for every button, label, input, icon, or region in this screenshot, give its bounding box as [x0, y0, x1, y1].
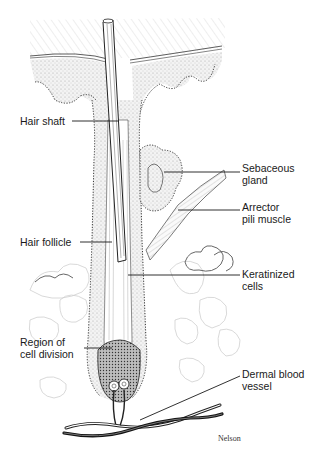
label-text: cell division: [20, 348, 74, 360]
label-text: Hair follicle: [20, 236, 71, 248]
label-dermal-blood-vessel: Dermal blood vessel: [242, 368, 304, 392]
label-text: Dermal blood: [242, 368, 304, 380]
label-text: gland: [242, 174, 295, 186]
label-arrector-pili-muscle: Arrector pili muscle: [242, 201, 291, 225]
label-text: vessel: [242, 380, 304, 392]
label-keratinized-cells: Keratinized cells: [242, 268, 295, 292]
label-text: Keratinized: [242, 268, 295, 280]
artist-credit: Nelson: [218, 434, 241, 443]
label-hair-follicle: Hair follicle: [20, 236, 71, 248]
label-text: pili muscle: [242, 213, 291, 225]
label-text: Arrector: [242, 201, 291, 213]
epidermis: [30, 18, 225, 58]
sebaceous-gland: [140, 145, 182, 211]
dermal-blood-vessels: [64, 405, 222, 436]
label-sebaceous-gland: Sebaceous gland: [242, 162, 295, 186]
label-text: Sebaceous: [242, 162, 295, 174]
label-hair-shaft: Hair shaft: [20, 115, 65, 127]
label-region-of-cell-division: Region of cell division: [20, 336, 74, 360]
label-text: cells: [242, 280, 295, 292]
label-text: Region of: [20, 336, 74, 348]
label-text: Hair shaft: [20, 115, 65, 127]
